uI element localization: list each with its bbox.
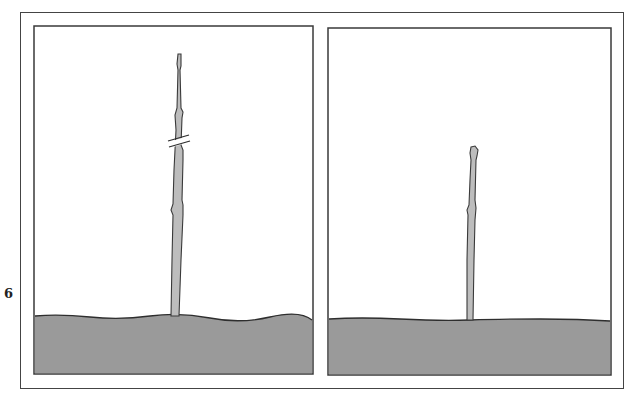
soil-right (329, 318, 610, 374)
panel-after (328, 28, 611, 375)
illustration (0, 0, 635, 397)
panel-before (34, 26, 313, 374)
soil-left (35, 314, 312, 373)
